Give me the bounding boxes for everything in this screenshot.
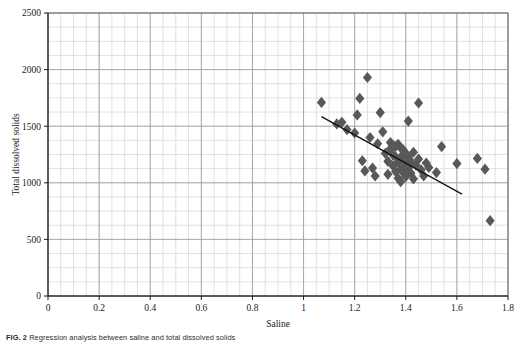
y-axis-title: Total dissolved solids bbox=[11, 113, 21, 196]
data-point bbox=[383, 169, 392, 180]
data-point bbox=[358, 155, 367, 166]
scatter-chart: 05001000150020002500 00.20.40.60.811.21.… bbox=[0, 0, 525, 330]
data-point bbox=[353, 109, 362, 120]
y-tick-label: 1000 bbox=[22, 178, 41, 188]
x-tick-label: 1.4 bbox=[400, 303, 412, 313]
data-point bbox=[414, 97, 423, 108]
y-tick-label: 0 bbox=[36, 291, 41, 301]
y-tick-label: 2000 bbox=[22, 65, 41, 75]
x-axis-title: Saline bbox=[266, 319, 290, 329]
y-tick-label: 2500 bbox=[22, 8, 41, 18]
x-tick-label: 1 bbox=[301, 303, 306, 313]
figure-container: 05001000150020002500 00.20.40.60.811.21.… bbox=[0, 0, 525, 344]
x-tick-label: 1.8 bbox=[502, 303, 514, 313]
x-tick-label: 0.6 bbox=[195, 303, 207, 313]
figure-caption: FIG. 2 Regression analysis between salin… bbox=[6, 333, 235, 342]
data-point bbox=[404, 116, 413, 127]
minor-gridlines bbox=[48, 13, 508, 296]
figure-caption-label: FIG. 2 bbox=[6, 333, 27, 342]
x-tick-label: 0.4 bbox=[144, 303, 156, 313]
y-axis: 05001000150020002500 bbox=[22, 8, 48, 301]
data-point bbox=[480, 164, 489, 175]
data-point bbox=[437, 141, 446, 152]
x-tick-label: 1.2 bbox=[349, 303, 361, 313]
data-point bbox=[355, 93, 364, 104]
x-tick-label: 0.2 bbox=[93, 303, 105, 313]
data-point bbox=[360, 165, 369, 176]
x-tick-label: 1.6 bbox=[451, 303, 463, 313]
figure-caption-text: Regression analysis between saline and t… bbox=[29, 333, 235, 342]
y-tick-label: 500 bbox=[27, 235, 42, 245]
data-point bbox=[378, 126, 387, 137]
x-axis: 00.20.40.60.811.21.41.61.8 bbox=[46, 296, 515, 313]
data-point bbox=[452, 158, 461, 169]
data-point bbox=[317, 97, 326, 108]
data-point bbox=[363, 72, 372, 83]
x-tick-label: 0.8 bbox=[247, 303, 259, 313]
x-tick-label: 0 bbox=[46, 303, 51, 313]
data-point bbox=[486, 215, 495, 226]
data-point bbox=[376, 107, 385, 118]
y-tick-label: 1500 bbox=[22, 122, 41, 132]
